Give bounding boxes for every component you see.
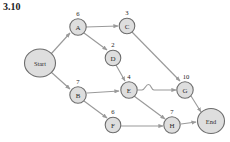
edge-e-h [134,96,165,119]
node-f[interactable]: 6 F [105,108,121,133]
node-a-weight: 6 [76,10,80,17]
edge-start-b [51,72,70,89]
node-e[interactable]: 4 E [121,73,137,99]
node-a-label: A [75,24,80,32]
node-d-label: D [110,55,115,63]
edge-e-g-line-jump [138,85,177,91]
node-c[interactable]: 3 C [119,9,135,34]
node-g-weight: 10 [183,73,190,80]
node-d-weight: 2 [111,41,114,48]
edge-g-end [191,96,201,112]
edge-h-end [181,122,196,124]
edge-a-d [84,33,107,50]
node-e-label: E [127,87,131,95]
node-f-label: F [111,122,115,130]
edge-layer [51,26,201,126]
node-d[interactable]: 2 D [105,41,121,66]
node-h-weight: 7 [170,108,174,115]
node-e-weight: 4 [127,73,131,80]
edge-a-c [86,26,118,27]
node-g-label: G [182,87,187,95]
node-start[interactable]: Start [25,49,56,77]
node-b[interactable]: 7 B [70,78,86,104]
edge-b-f [84,101,107,118]
node-c-weight: 3 [125,9,129,16]
edge-start-a [51,33,70,54]
node-b-label: B [76,92,81,100]
node-f-weight: 6 [111,108,115,115]
edge-b-e [87,91,119,93]
activity-network-diagram: Start 6 A 3 C 2 D 7 B 4 E 6 [0,0,230,142]
node-start-label: Start [34,60,46,67]
node-g[interactable]: 10 G [177,73,193,99]
node-c-label: C [125,23,130,31]
node-a[interactable]: 6 A [70,10,86,36]
node-h-label: H [169,122,174,130]
node-h[interactable]: 7 H [164,108,180,134]
node-end[interactable]: End [198,109,225,134]
node-b-weight: 7 [76,78,80,85]
edge-c-g [132,32,180,81]
edge-d-e [116,65,125,81]
node-layer: Start 6 A 3 C 2 D 7 B 4 E 6 [25,9,225,134]
node-end-label: End [206,118,217,125]
